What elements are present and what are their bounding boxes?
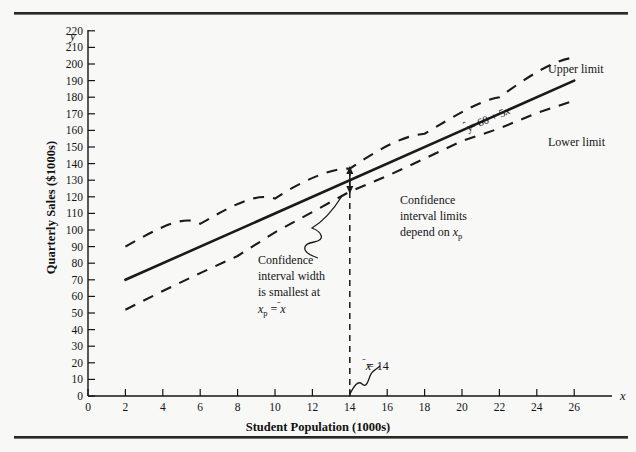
regression-equation-label: ŷ = 60 + 5x [461,102,513,136]
ci-depend-line3: depend on xp [400,225,462,241]
svg-text:190: 190 [66,75,84,87]
svg-text:40: 40 [72,324,84,336]
ci-width-line1: Confidence [258,253,313,267]
svg-text:50: 50 [72,307,84,319]
figure-canvas: Quarterly Sales ($1000s) Student Populat… [0,0,636,452]
svg-text:4: 4 [160,401,166,413]
svg-text:220: 220 [66,25,84,37]
svg-text:26: 26 [568,401,580,413]
svg-text:10: 10 [269,401,281,413]
ci-width-annotation: Confidence interval width is smallest at… [257,253,325,318]
svg-text:160: 160 [66,124,84,136]
svg-text:6: 6 [197,401,203,413]
y-tick-marks [88,31,95,396]
chart-plot-area: y x [0,0,636,452]
svg-text:70: 70 [72,274,84,286]
svg-text:0: 0 [77,390,83,402]
svg-text:90: 90 [72,241,84,253]
svg-text:170: 170 [66,108,84,120]
svg-text:ŷ = 60 + 5x: ŷ = 60 + 5x [461,102,513,136]
svg-text:120: 120 [66,191,84,203]
svg-text:130: 130 [66,174,84,186]
svg-text:150: 150 [66,141,84,153]
svg-text:16: 16 [381,401,393,413]
x-tick-marks [88,389,574,396]
svg-text:140: 140 [66,158,84,170]
svg-text:60: 60 [72,290,84,302]
ci-depend-line2: interval limits [400,209,467,223]
svg-text:2: 2 [123,401,129,413]
svg-text:30: 30 [72,340,84,352]
ci-width-line3: is smallest at [258,285,321,299]
x-tick-labels: 0 2 4 6 8 10 12 14 16 18 20 22 24 26 [85,401,580,413]
lower-limit-label: Lower limit [548,135,606,149]
svg-text:210: 210 [66,41,84,53]
ci-depend-annotation: Confidence interval limits depend on xp [400,193,467,241]
svg-text:110: 110 [66,207,83,219]
svg-text:20: 20 [456,401,468,413]
svg-text:14: 14 [344,401,356,413]
svg-text:24: 24 [531,401,543,413]
upper-limit-label: Upper limit [548,62,604,76]
y-tick-labels: 0 10 20 30 40 50 60 70 80 90 100 110 120… [66,25,84,402]
svg-text:80: 80 [72,257,84,269]
svg-text:0: 0 [85,401,91,413]
svg-text:8: 8 [235,401,241,413]
ci-depend-line1: Confidence [400,193,455,207]
x-mean-label: x̄ = 14 [362,359,389,373]
svg-text:22: 22 [494,401,506,413]
svg-text:100: 100 [66,224,84,236]
ci-width-line2: interval width [258,269,325,283]
x-axis-variable-marker: x [619,389,626,403]
ci-width-line4: xp = x̄ [257,302,286,318]
svg-text:10: 10 [72,373,84,385]
svg-text:180: 180 [66,91,84,103]
svg-text:200: 200 [66,58,84,70]
equation-rest: = 60 + 5 [464,106,507,134]
svg-text:20: 20 [72,357,84,369]
svg-text:12: 12 [307,401,319,413]
svg-text:18: 18 [419,401,431,413]
